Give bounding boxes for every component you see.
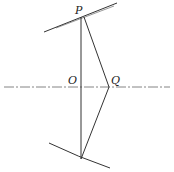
tangent-line-p-secondary <box>56 6 114 28</box>
label-q: Q <box>111 74 120 87</box>
label-o: O <box>68 74 77 87</box>
label-p: P <box>74 4 83 17</box>
geometry-diagram: P O Q <box>0 0 174 172</box>
line-q-bottom <box>81 87 109 159</box>
bottom-arc <box>49 143 110 168</box>
line-pq <box>84 17 109 87</box>
